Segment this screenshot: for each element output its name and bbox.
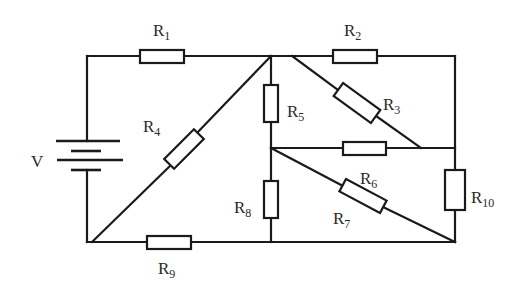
wire-r7-upper [271,148,343,186]
label-r2: R2 [344,21,361,43]
resistor-r3-body [334,83,381,123]
resistor-r6 [343,142,386,155]
resistor-r10 [445,170,465,210]
resistor-r9 [147,236,191,249]
label-r9: R9 [158,259,175,281]
resistor-r4 [164,129,204,169]
resistor-r1 [140,50,184,63]
battery-label: V [31,152,44,171]
wire-r4-lower [92,164,172,242]
label-r6: R6 [360,169,377,191]
resistor-r6-body [343,142,386,155]
label-r3: R3 [383,95,400,117]
resistor-r8-body [264,181,278,218]
label-r8: R8 [234,198,251,220]
resistor-r5 [264,85,278,122]
label-r7: R7 [333,209,350,231]
resistor-r8 [264,181,278,218]
wire-r4-upper [196,56,271,134]
resistor-r10-body [445,170,465,210]
resistor-r3 [334,83,381,123]
circuit-diagram: V R1 R2 R3 R4 R5 R6 R7 R8 R9 R10 [0,0,523,301]
resistor-r1-body [140,50,184,63]
resistor-r9-body [147,236,191,249]
resistor-r4-body [164,129,204,169]
wire-r3-upper [292,56,338,90]
wire-r7-lower [383,207,455,242]
label-r1: R1 [153,21,170,43]
resistor-r5-body [264,85,278,122]
resistor-r2 [333,50,377,63]
battery-icon [56,141,123,170]
label-r5: R5 [287,102,304,124]
label-r10: R10 [471,188,494,210]
resistor-r2-body [333,50,377,63]
label-r4: R4 [143,117,160,139]
